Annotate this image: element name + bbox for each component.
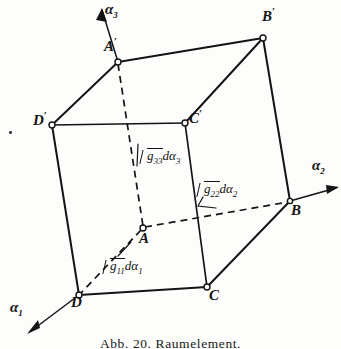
vertex-marker-Bprime (260, 35, 266, 41)
figure-raumelement: α1 α2 α3 A′ B′ C′ D′ A B C D g11dα1 g22d… (0, 0, 341, 349)
axis-label-alpha1: α1 (10, 300, 23, 318)
figure-caption: Abb. 20. Raumelement. (0, 336, 341, 349)
vertex-marker-Cprime (182, 120, 188, 126)
axis-alpha2-arrowhead (326, 185, 339, 194)
vertex-label-C: C (209, 285, 219, 303)
axis-label-alpha2: α2 (312, 158, 325, 176)
vertex-markers (49, 35, 293, 298)
measure-label-g22: g22dα2 (197, 181, 237, 199)
leader-g33 (137, 144, 138, 166)
vertex-marker-Aprime (115, 59, 121, 65)
vertex-label-Bprime: B′ (262, 6, 275, 24)
leader-g22 (198, 197, 216, 208)
vertex-label-D: D (71, 292, 82, 310)
cube-edges-solid (52, 38, 290, 295)
axis-label-alpha3: α3 (105, 2, 118, 20)
vertex-marker-Dprime (49, 122, 55, 128)
vertex-label-A: A (139, 228, 149, 246)
edge-Bprime-B (263, 38, 290, 201)
edge-Cprime-C (185, 123, 207, 287)
edge-D-C (79, 287, 207, 295)
radical-sign-g33: g33 (140, 148, 163, 166)
axes-group (27, 8, 339, 334)
ink-dot (9, 131, 12, 134)
edge-Dprime-Cprime (52, 123, 185, 125)
figure-drawing-canvas (0, 0, 341, 349)
edge-Dprime-D (52, 125, 79, 295)
vertex-label-B: B (291, 200, 301, 218)
edge-Aprime-Dprime (52, 62, 118, 125)
vertex-label-Aprime: A′ (104, 36, 117, 54)
measure-label-g11: g11dα1 (103, 258, 143, 276)
edge-Aprime-Bprime (118, 38, 263, 62)
radical-sign-g11: g11 (103, 258, 125, 276)
vertex-label-Dprime: D′ (33, 110, 47, 128)
edge-A-B (145, 202, 288, 227)
leader-g11 (118, 242, 131, 256)
radical-sign-g22: g22 (197, 181, 220, 199)
measure-label-g33: g33dα3 (140, 148, 180, 166)
vertex-label-Cprime: C′ (189, 108, 202, 126)
edge-Aprime-A (118, 64, 143, 226)
axis-alpha1-arrowhead (27, 320, 40, 334)
